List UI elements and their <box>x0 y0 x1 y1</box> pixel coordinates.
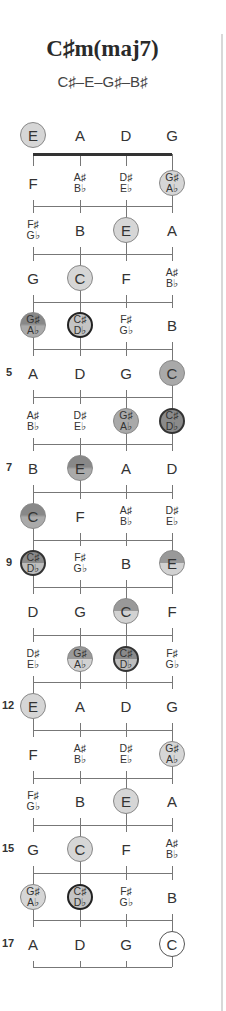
note-name: B♭ <box>27 421 39 432</box>
note-name: B♭ <box>74 754 86 765</box>
note-name: B <box>75 794 85 809</box>
chord-tone-dot: C♯D♭ <box>20 550 46 576</box>
chord-tone-dot: C <box>113 598 139 624</box>
note-label: D <box>155 451 189 485</box>
chord-tone-dot: G♯A♭ <box>159 170 185 196</box>
note-label: D♯E♭ <box>109 737 143 771</box>
note-name: G♭ <box>119 325 132 336</box>
note-name: D <box>75 366 86 381</box>
note-label: F♯G♭ <box>109 880 143 914</box>
fret-line <box>33 587 172 588</box>
note-name: B <box>75 223 85 238</box>
note-name: D <box>28 604 39 619</box>
note-name: D♭ <box>74 325 87 336</box>
note-name: F <box>121 842 130 857</box>
note-label: A <box>63 118 97 152</box>
note-name: A♭ <box>27 897 39 908</box>
fret-number: 17 <box>2 937 14 949</box>
note-label: F♯G♭ <box>16 784 50 818</box>
note-label: D <box>16 594 50 628</box>
note-label: G <box>155 689 189 723</box>
fret-line <box>33 635 172 636</box>
note-label: A <box>16 356 50 390</box>
chord-notes: C♯–E–G♯–B♯ <box>0 73 205 90</box>
note-name: D <box>121 128 132 143</box>
right-border <box>221 34 223 1011</box>
chord-tone-dot: C <box>159 931 185 957</box>
fret-line <box>33 778 172 779</box>
chord-tone-dot: G♯A♭ <box>67 646 93 672</box>
note-label: A♯B♭ <box>109 499 143 533</box>
note-label: A♯B♭ <box>155 832 189 866</box>
note-name: D♭ <box>27 563 40 574</box>
note-name: B <box>167 318 177 333</box>
note-name: G♭ <box>165 659 178 670</box>
note-label: A♯B♭ <box>63 737 97 771</box>
note-label: B <box>155 880 189 914</box>
note-name: E <box>75 461 85 476</box>
note-name: B <box>28 461 38 476</box>
note-label: F♯G♭ <box>155 642 189 676</box>
fret-number: 5 <box>6 366 12 378</box>
note-name: F <box>28 176 37 191</box>
note-label: A <box>155 784 189 818</box>
note-name: G <box>27 842 39 857</box>
note-name: E♭ <box>27 659 39 670</box>
note-label: G <box>155 118 189 152</box>
note-label: F♯G♭ <box>63 546 97 580</box>
note-name: F <box>28 747 37 762</box>
chord-tone-dot: C <box>20 503 46 529</box>
note-label: F <box>16 737 50 771</box>
note-label: D♯E♭ <box>63 404 97 438</box>
fret-line <box>33 873 172 874</box>
note-name: F <box>75 509 84 524</box>
note-name: G <box>166 128 178 143</box>
note-name: C <box>75 271 86 286</box>
note-name: G♭ <box>26 230 39 241</box>
chord-tone-dot: G♯A♭ <box>20 884 46 910</box>
note-name: A <box>28 937 38 952</box>
note-label: B <box>155 308 189 342</box>
note-label: G <box>109 356 143 390</box>
note-name: A <box>167 794 177 809</box>
note-name: E♭ <box>120 754 132 765</box>
note-label: A <box>155 213 189 247</box>
note-name: A♭ <box>120 421 132 432</box>
nut <box>33 153 172 156</box>
note-name: F <box>167 604 176 619</box>
note-label: G <box>109 927 143 961</box>
note-name: C <box>28 509 39 524</box>
chord-title: C♯m(maj7) <box>0 36 205 62</box>
note-name: A <box>75 699 85 714</box>
note-name: C <box>121 604 132 619</box>
note-name: A <box>75 128 85 143</box>
note-name: D <box>167 461 178 476</box>
note-name: A <box>28 366 38 381</box>
note-name: E <box>28 128 38 143</box>
chord-tone-dot: C♯D♭ <box>67 884 93 910</box>
note-name: A♭ <box>166 183 178 194</box>
note-label: A <box>16 927 50 961</box>
note-name: C <box>167 937 178 952</box>
note-label: A <box>63 689 97 723</box>
note-name: G <box>120 366 132 381</box>
note-name: G♭ <box>119 897 132 908</box>
note-name: D <box>121 699 132 714</box>
note-label: B <box>16 451 50 485</box>
note-name: B♭ <box>166 849 178 860</box>
fret-number: 15 <box>2 842 14 854</box>
fret-line <box>33 967 172 968</box>
chord-tone-dot: E <box>113 788 139 814</box>
note-name: D♭ <box>74 897 87 908</box>
chord-tone-dot: E <box>159 550 185 576</box>
note-name: G <box>166 699 178 714</box>
note-name: E♭ <box>74 421 86 432</box>
note-name: B <box>121 556 131 571</box>
fret-line <box>33 349 172 350</box>
note-label: G <box>16 832 50 866</box>
fret-line <box>33 540 172 541</box>
note-name: E <box>28 699 38 714</box>
note-name: D♭ <box>166 421 179 432</box>
note-label: D <box>63 356 97 390</box>
note-name: F <box>121 271 130 286</box>
